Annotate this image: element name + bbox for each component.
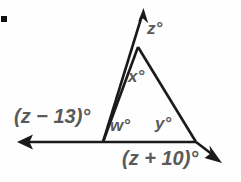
geometry-figure: z° x° w° y° (z − 13)° (z + 10)° xyxy=(0,0,241,182)
geometry-canvas xyxy=(0,0,241,182)
angle-label-apex-exterior: z° xyxy=(147,20,162,37)
angle-label-base-right-exterior: (z + 10)° xyxy=(122,148,198,168)
arrowhead-down-right-icon xyxy=(205,146,223,164)
angle-label-base-right-interior: y° xyxy=(155,115,171,132)
angle-label-apex-interior: x° xyxy=(128,68,144,85)
angle-label-base-left-interior: w° xyxy=(110,117,130,134)
angle-label-base-left-exterior: (z − 13)° xyxy=(14,106,90,126)
